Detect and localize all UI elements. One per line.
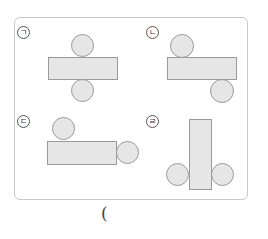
net-b-rectangle — [167, 57, 237, 80]
net-b-bottom-circle — [210, 79, 234, 103]
net-c-right-circle — [116, 141, 139, 164]
option-label-b: ㄴ — [146, 26, 159, 39]
net-a-top-circle — [71, 34, 94, 57]
answer-blank: ( — [101, 203, 108, 223]
option-label-d: ㄹ — [146, 115, 159, 128]
net-a-bottom-circle — [71, 79, 94, 102]
net-d-left-circle — [166, 163, 189, 186]
option-label-c: ㄷ — [17, 115, 30, 128]
option-label-a: ㄱ — [17, 26, 30, 39]
net-c-rectangle — [47, 141, 117, 165]
net-a-rectangle — [48, 57, 118, 80]
net-c-top-circle — [52, 117, 75, 140]
net-d-rectangle — [189, 119, 212, 190]
net-b-top-circle — [170, 34, 194, 58]
net-d-right-circle — [211, 163, 234, 186]
